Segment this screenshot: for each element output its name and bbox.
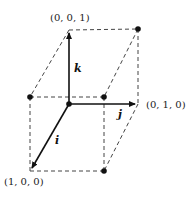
label-j-point: (0, 1, 0) <box>146 99 186 110</box>
basis-vectors <box>32 33 135 168</box>
vertex-dot <box>101 94 107 100</box>
i-vector <box>32 104 69 168</box>
origin-dot <box>66 101 72 107</box>
unit-cube-diagram: (0, 0, 1) (0, 1, 0) (1, 0, 0) k j i <box>0 0 190 199</box>
label-j-vector: j <box>116 108 122 121</box>
label-i-vector: i <box>55 134 59 147</box>
vertex-dot <box>27 94 33 100</box>
vertex-dot <box>135 26 141 32</box>
dashed-cube-edges <box>30 29 138 171</box>
vertex-dots <box>27 26 141 174</box>
label-k-point: (0, 0, 1) <box>50 12 90 23</box>
label-k-vector: k <box>74 62 82 75</box>
label-i-point: (1, 0, 0) <box>4 176 44 187</box>
vertex-dot <box>101 168 107 174</box>
